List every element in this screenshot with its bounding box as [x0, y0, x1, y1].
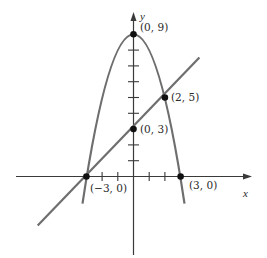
point-0-9 [130, 31, 137, 38]
y-axis-arrow-icon [131, 12, 137, 21]
label-3-0: (3, 0) [189, 179, 217, 191]
label-2-5: (2, 5) [171, 91, 199, 103]
y-axis [128, 12, 139, 255]
plot-canvas: y x (0, 9) (2, 5) (0, 3) (−3, 0) (3, 0) [0, 0, 267, 258]
label-0-9: (0, 9) [140, 21, 168, 33]
label-neg3-0: (−3, 0) [90, 182, 127, 194]
graph-figure: y x (0, 9) (2, 5) (0, 3) (−3, 0) (3, 0) [0, 0, 267, 258]
x-axis-label: x [242, 187, 248, 199]
point-3-0 [177, 173, 184, 180]
x-axis-arrow-icon [243, 174, 252, 180]
point-2-5 [162, 94, 169, 101]
point-0-3 [130, 126, 137, 133]
label-0-3: (0, 3) [140, 123, 168, 135]
point-neg3-0 [83, 173, 90, 180]
